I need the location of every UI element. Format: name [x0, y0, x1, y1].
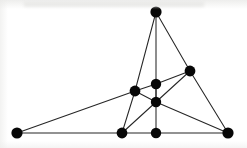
graph-canvas: [0, 0, 247, 148]
graph-vertex-I: [222, 127, 233, 138]
graph-vertex-A: [150, 6, 161, 17]
graph-vertex-C: [130, 86, 141, 97]
graph-vertex-B: [185, 66, 196, 77]
graph-vertex-E: [151, 97, 161, 107]
graph-vertex-H: [151, 128, 161, 138]
graph-vertex-F: [11, 127, 22, 138]
graph-vertex-D: [151, 79, 161, 89]
figure-root: [0, 0, 247, 148]
graph-vertex-G: [117, 128, 128, 139]
